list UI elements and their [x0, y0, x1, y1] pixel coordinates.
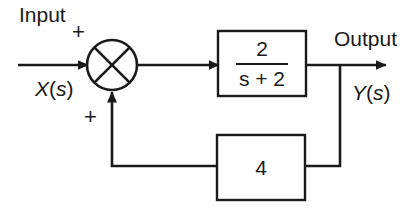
- output-signal-s: s: [373, 81, 384, 104]
- input-signal-open-paren: (: [49, 77, 56, 100]
- input-signal-label: X(s): [35, 78, 74, 99]
- input-label: Input: [19, 4, 66, 25]
- input-signal-s: s: [56, 77, 67, 100]
- input-signal-variable: X: [35, 77, 49, 100]
- output-signal-variable: Y: [352, 81, 366, 104]
- transfer-function-numerator: 2: [256, 38, 268, 61]
- transfer-function-expression: 2 s + 2: [218, 31, 306, 96]
- output-signal-label: Y(s): [352, 82, 391, 103]
- output-signal-close-paren: ): [384, 81, 391, 104]
- input-signal-close-paren: ): [67, 77, 74, 100]
- output-label: Output: [334, 28, 397, 49]
- fraction-bar: [236, 63, 288, 65]
- transfer-function-denominator: s + 2: [239, 68, 285, 89]
- feedback-return-arrow: [112, 92, 217, 166]
- summing-junction-plus-top: +: [72, 21, 85, 43]
- summing-junction-plus-bottom: +: [84, 106, 97, 128]
- feedback-branch-line: [306, 65, 340, 166]
- block-diagram-canvas: Input Output X(s) Y(s) + + 2 s + 2 4: [0, 0, 415, 211]
- feedback-gain-value: 4: [217, 135, 305, 200]
- output-signal-open-paren: (: [366, 81, 373, 104]
